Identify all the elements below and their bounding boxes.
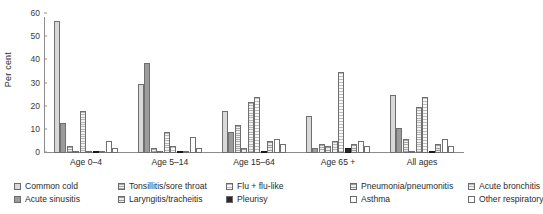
bar [248,102,254,153]
bar [403,139,409,153]
legend-item: Other respiratory [468,195,543,204]
legend-item: Acute sinusitis [14,195,118,204]
x-axis-group-label: All ages [380,157,464,167]
x-axis-group-label: Age 15–64 [212,157,296,167]
plot-area [44,14,464,153]
legend-swatch-icon [14,183,21,190]
bar [396,128,402,153]
bar [99,151,105,153]
legend-item: Flu + flu-like [226,182,350,191]
legend-item: Asthma [350,195,468,204]
bar [112,148,118,153]
bar-group [380,14,464,153]
bar [144,63,150,153]
bar [325,146,331,153]
bar [409,151,415,153]
bar [73,151,79,153]
bar [306,116,312,153]
bar [164,132,170,153]
x-axis-group-label: Age 0–4 [44,157,128,167]
y-axis-tick-label: 40 [31,55,40,64]
bar [280,144,286,153]
bar [222,111,228,153]
legend-swatch-icon [226,183,233,190]
bar-group [296,14,380,153]
legend-item: Pneumonia/pneumonitis [350,182,468,191]
bar [429,151,435,153]
bar [254,97,260,153]
bar [235,125,241,153]
legend-swatch-icon [468,196,475,203]
legend-item-label: Acute sinusitis [25,195,80,204]
legend-item-label: Asthma [361,195,390,204]
legend-swatch-icon [14,196,21,203]
bar [60,123,66,153]
bar [241,148,247,153]
y-axis-tick-label: 60 [31,9,40,18]
x-axis-group-label: Age 65 + [296,157,380,167]
bar [138,84,144,154]
bar [435,144,441,153]
bar [351,144,357,153]
legend-swatch-icon [468,183,475,190]
bar [196,148,202,153]
bar [177,151,183,153]
bar [261,151,267,153]
bar [80,111,86,153]
bar [267,141,273,153]
legend-item-label: Pneumonia/pneumonitis [361,182,453,191]
bar [183,151,189,153]
bar [228,132,234,153]
bar [364,146,370,153]
y-axis-tick-label: 50 [31,32,40,41]
y-axis-tick-label: 10 [31,125,40,134]
bar [151,148,157,153]
x-axis-group-label: Age 5–14 [128,157,212,167]
legend-item-label: Other respiratory [479,195,543,204]
legend-swatch-icon [350,183,357,190]
bar [319,144,325,153]
legend-item-label: Acute bronchitis [479,182,540,191]
legend-item: Pleurisy [226,195,350,204]
y-axis-tick-label: 0 [35,148,40,157]
bar [190,137,196,153]
bar [345,148,351,153]
bar [332,141,338,153]
bar-group [128,14,212,153]
legend-item: Laryngitis/tracheitis [118,195,226,204]
legend-item: Common cold [14,182,118,191]
bar [170,146,176,153]
bar [274,139,280,153]
bar [54,21,60,153]
legend-swatch-icon [118,196,125,203]
bar [338,72,344,153]
legend-swatch-icon [118,183,125,190]
legend-item-label: Laryngitis/tracheitis [129,195,203,204]
bar [86,151,92,153]
legend-item-label: Tonsillitis/sore throat [129,182,207,191]
bar [416,107,422,153]
y-axis-tick-label: 20 [31,101,40,110]
bar [93,151,99,153]
bar-group [44,14,128,153]
bar [312,148,318,153]
legend-swatch-icon [226,196,233,203]
bar [422,97,428,153]
bar [448,146,454,153]
bar-group [212,14,296,153]
legend-item: Acute bronchitis [468,182,543,191]
bar [390,95,396,153]
legend-swatch-icon [350,196,357,203]
y-axis-tick-label: 30 [31,78,40,87]
chart-legend: Common coldAcute sinusitisTonsillitis/so… [14,180,472,206]
bar [67,146,73,153]
y-axis-title: Per cent [3,52,13,87]
legend-item-label: Common cold [25,182,78,191]
legend-item-label: Flu + flu-like [237,182,284,191]
bar [106,141,112,153]
bar [157,151,163,153]
bar [358,141,364,153]
bar [442,139,448,153]
legend-item: Tonsillitis/sore throat [118,182,226,191]
